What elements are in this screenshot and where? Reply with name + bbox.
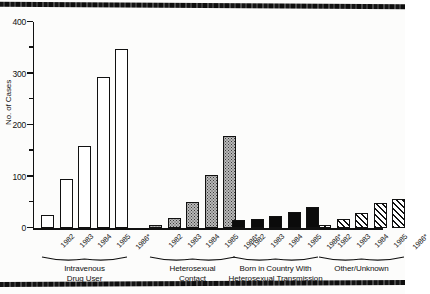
bar	[318, 225, 331, 228]
x-axis-line	[33, 228, 383, 230]
y-tick-major	[27, 72, 33, 73]
y-tick-minor	[29, 98, 33, 99]
group-bracket	[232, 256, 319, 263]
x-tick-label: 1986*	[410, 232, 430, 252]
y-tick-major	[27, 21, 33, 22]
bar	[374, 203, 387, 228]
x-tick-label: 1984	[373, 232, 391, 250]
group-caption-line: Drug User	[25, 274, 145, 284]
bar	[269, 216, 282, 228]
y-tick-label: 200	[12, 120, 26, 130]
y-tick-minor	[29, 46, 33, 47]
x-tick-label: 1983	[268, 232, 286, 250]
bar	[355, 213, 368, 228]
y-tick-minor	[29, 201, 33, 202]
bar	[232, 220, 245, 228]
x-tick-label: 1982	[59, 232, 77, 250]
x-tick-label: 1982	[167, 232, 185, 250]
bar	[41, 215, 54, 228]
x-tick-label: 1984	[96, 232, 114, 250]
x-tick-label: 1984	[204, 232, 222, 250]
y-tick-label: 0	[21, 223, 26, 233]
bar	[60, 179, 73, 228]
x-tick-label: 1983	[354, 232, 372, 250]
bar	[115, 49, 128, 228]
bar	[288, 212, 301, 228]
x-tick-label: 1985	[114, 232, 132, 250]
bar	[97, 77, 110, 228]
group-bracket	[41, 256, 128, 263]
x-tick-label: 1985	[305, 232, 323, 250]
y-tick-major	[27, 227, 33, 228]
bar	[223, 136, 236, 228]
group-bracket	[318, 256, 405, 263]
group-caption: IntravenousDrug User	[25, 264, 145, 284]
bar	[337, 219, 350, 228]
x-tick-label: 1983	[185, 232, 203, 250]
group-caption-line: Heterosexual Transmission	[216, 274, 336, 284]
bar	[251, 219, 264, 228]
y-tick-label: 100	[12, 172, 26, 182]
group-caption-line: Intravenous	[25, 264, 145, 274]
plot-area: 0100200300400	[33, 22, 383, 228]
group-caption-line: Other/Unknown	[302, 264, 422, 274]
bar	[168, 218, 181, 228]
x-tick-label: 1985	[391, 232, 409, 250]
bar	[149, 225, 162, 228]
y-tick-label: 300	[12, 69, 26, 79]
x-tick-label: 1984	[287, 232, 305, 250]
bar	[78, 146, 91, 228]
bar	[186, 202, 199, 228]
bar	[392, 199, 405, 228]
scan-artifact-top-band	[0, 2, 405, 9]
y-tick-major	[27, 124, 33, 125]
y-tick-label: 400	[12, 17, 26, 27]
group-bracket	[149, 256, 236, 263]
y-axis-title: No. of Cases	[4, 80, 13, 125]
group-caption: Other/Unknown	[302, 264, 422, 274]
y-tick-major	[27, 175, 33, 176]
y-tick-minor	[29, 149, 33, 150]
bar	[205, 175, 218, 228]
x-tick-label: 1983	[77, 232, 95, 250]
x-tick-label: 1986*	[133, 232, 153, 252]
x-tick-label: 1985	[222, 232, 240, 250]
